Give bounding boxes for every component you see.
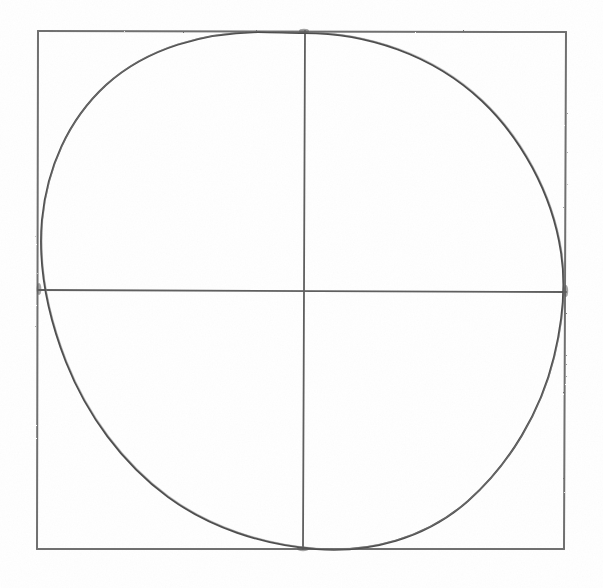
tangent-mark-right — [564, 285, 568, 297]
drawing-canvas: Hand-drawn circle inscribed in a square — [0, 0, 603, 588]
tangent-mark-left — [37, 283, 42, 295]
tangent-mark-bottom — [297, 547, 309, 551]
paper-grain-texture — [0, 0, 603, 588]
tangent-mark-top — [299, 29, 309, 33]
pencil-drawing — [0, 0, 603, 588]
